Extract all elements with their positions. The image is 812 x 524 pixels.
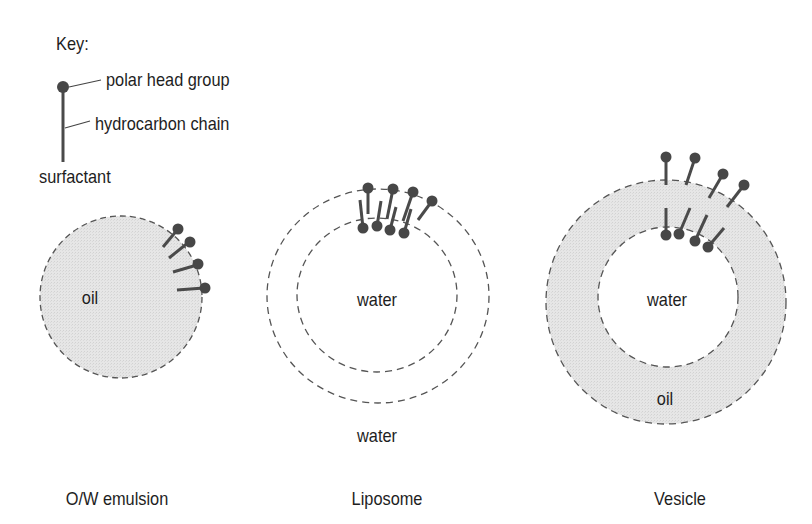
ow-oil-label: oil — [82, 288, 98, 307]
vesicle-inner-water-label: water — [647, 290, 687, 309]
vesicle-oil-label: oil — [657, 389, 673, 408]
key-surfactant-label: surfactant — [39, 167, 111, 186]
key-head-label: polar head group — [106, 70, 230, 89]
liposome-bilayer-lipids — [358, 183, 438, 239]
key-polar-head-icon — [57, 81, 69, 93]
liposome-inner-water-label: water — [357, 290, 397, 309]
ow-emulsion-diagram — [40, 216, 211, 378]
liposome-caption: Liposome — [352, 489, 423, 508]
oil-droplet — [40, 216, 202, 378]
key-chain-label: hydrocarbon chain — [95, 114, 229, 133]
vesicle-diagram — [546, 152, 786, 425]
liposome-outer-water-label: water — [357, 426, 397, 445]
key-chain-leader-line — [65, 121, 90, 128]
key-title: Key: — [56, 34, 89, 53]
diagram-canvas: Key: polar head group hydrocarbon chain … — [0, 0, 812, 524]
ow-emulsion-caption: O/W emulsion — [66, 489, 169, 508]
vesicle-caption: Vesicle — [654, 489, 706, 508]
key-head-leader-line — [69, 80, 101, 87]
